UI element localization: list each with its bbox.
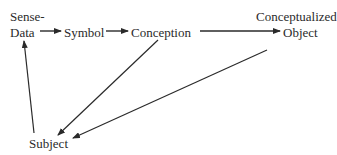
node-sense-data-line1: Sense-	[10, 10, 45, 23]
node-subject: Subject	[29, 137, 68, 150]
node-conceptualized-object-line2: Object	[283, 26, 318, 39]
node-conceptualized-object-line1: Conceptualized	[256, 10, 337, 23]
arrow-conception-to-subject	[58, 40, 158, 135]
arrow-subject-to-sensedata	[24, 41, 34, 133]
node-sense-data-line2: Data	[10, 26, 35, 39]
node-conception: Conception	[131, 26, 191, 39]
arrow-object-to-subject	[73, 50, 267, 138]
node-symbol: Symbol	[64, 26, 104, 39]
